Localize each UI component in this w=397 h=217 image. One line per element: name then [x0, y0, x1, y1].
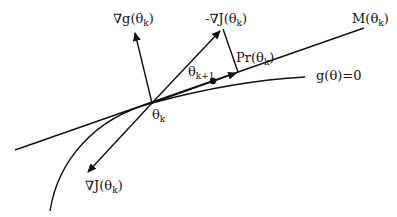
current-point-label: θk — [152, 107, 166, 124]
grad-g-label: ∇g(θk) — [113, 11, 154, 28]
neg-grad-J-label: -∇J(θk) — [205, 11, 247, 28]
tangent-label: M(θk) — [352, 11, 389, 28]
next-point-label: θk+1 — [188, 64, 215, 81]
projection-label: Pr(θk) — [236, 50, 274, 67]
neg-grad-J-arrow — [152, 31, 220, 103]
constraint-label: g(θ)=0 — [316, 68, 361, 83]
grad-J-label: ∇J(θk) — [85, 178, 123, 195]
grad-g-arrow — [135, 33, 152, 103]
projection-diagram: ∇g(θk) -∇J(θk) M(θk) Pr(θk) θk+1 g(θ)=0 … — [0, 0, 397, 217]
